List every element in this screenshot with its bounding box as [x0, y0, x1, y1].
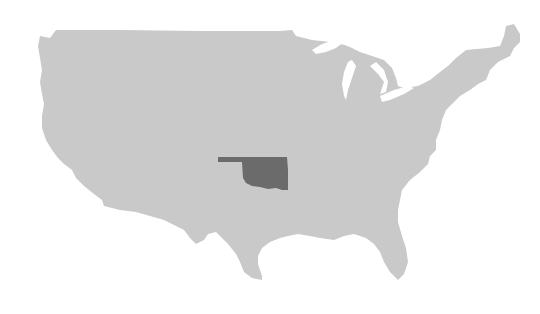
us-landmass: [38, 24, 520, 280]
us-map: [0, 0, 540, 314]
